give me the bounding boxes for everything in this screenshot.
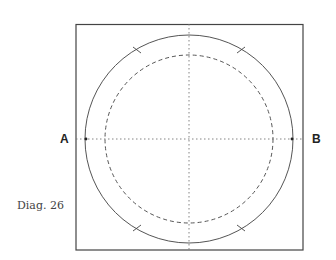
point-b-marker: [291, 138, 294, 141]
diagram-canvas: [0, 0, 336, 260]
point-a-marker: [85, 138, 88, 141]
diagram-caption: Diag. 26: [17, 199, 64, 212]
label-b: B: [312, 132, 321, 146]
label-a: A: [60, 132, 69, 146]
frame-border: [76, 25, 303, 251]
